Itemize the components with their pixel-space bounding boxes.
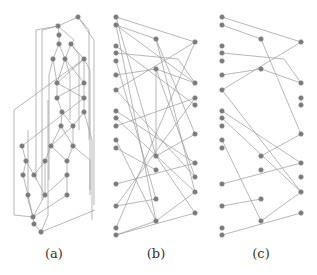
graph-node	[220, 138, 225, 143]
graph-node	[82, 57, 87, 62]
graph-node	[60, 110, 65, 115]
graph-node	[193, 190, 198, 195]
graph-node	[220, 182, 225, 187]
graph-node	[193, 96, 198, 101]
graph-node	[193, 40, 198, 45]
graph-node	[114, 73, 119, 78]
panel-c-reduced-column-graph	[220, 15, 304, 238]
graph-edge	[116, 25, 156, 221]
graph-node	[114, 109, 119, 114]
caption-c: (c)	[252, 246, 269, 261]
graph-node	[154, 37, 159, 42]
graph-node	[114, 88, 119, 93]
graph-edge	[73, 112, 84, 126]
graph-node	[21, 173, 26, 178]
panel-b-column-graph	[114, 15, 198, 238]
graph-edge	[156, 192, 195, 221]
graph-node	[220, 44, 225, 49]
graph-node	[49, 144, 54, 149]
graph-edge	[222, 213, 301, 235]
graph-node	[71, 124, 76, 129]
graph-node	[76, 15, 81, 20]
graph-edge	[51, 126, 61, 146]
graph-node	[24, 159, 29, 164]
graph-node	[299, 132, 304, 137]
graph-node	[39, 230, 44, 235]
graph-edge	[222, 25, 261, 39]
graph-node	[220, 226, 225, 231]
graph-edge	[23, 175, 28, 195]
graph-node	[220, 116, 225, 121]
graph-edge	[261, 192, 301, 221]
graph-node	[220, 51, 225, 56]
graph-edge	[116, 98, 195, 206]
graph-node	[259, 67, 264, 72]
graph-edge	[156, 134, 195, 156]
graph-node	[220, 204, 225, 209]
graph-edge	[33, 195, 67, 217]
graph-edge	[49, 59, 53, 180]
graph-node	[220, 124, 225, 129]
graph-node	[259, 154, 264, 159]
graph-node	[65, 159, 70, 164]
graph-edge	[61, 126, 73, 146]
graph-node	[299, 190, 304, 195]
graph-node	[299, 175, 304, 180]
graph-node	[114, 138, 119, 143]
graph-edge	[261, 69, 301, 83]
graph-node	[71, 144, 76, 149]
graph-node	[220, 109, 225, 114]
graph-edge	[22, 98, 84, 146]
graph-node	[114, 182, 119, 187]
graph-node	[299, 103, 304, 108]
caption-a: (a)	[45, 246, 63, 261]
graph-node	[114, 226, 119, 231]
graph-node	[193, 103, 198, 108]
graph-node	[63, 57, 68, 62]
graph-node	[193, 211, 198, 216]
graph-edge	[261, 134, 301, 156]
graph-edge	[116, 46, 195, 105]
graph-edge	[51, 126, 73, 146]
graph-edge	[73, 146, 90, 195]
graph-node	[154, 154, 159, 159]
graph-edge	[51, 146, 67, 161]
graph-node	[65, 173, 70, 178]
graph-node	[259, 37, 264, 42]
graph-node	[51, 57, 56, 62]
graph-node	[59, 124, 64, 129]
graph-node	[57, 33, 62, 38]
graph-node	[57, 42, 62, 47]
caption-b: (b)	[147, 246, 165, 261]
graph-node	[299, 40, 304, 45]
graph-node	[299, 81, 304, 86]
graph-node	[114, 146, 119, 151]
graph-edge	[261, 39, 301, 134]
graph-node	[114, 15, 119, 20]
graph-node	[31, 215, 36, 220]
graph-node	[114, 44, 119, 49]
graph-edge	[116, 69, 156, 75]
graph-edge	[116, 213, 195, 235]
graph-edge	[78, 17, 89, 140]
graph-node	[299, 211, 304, 216]
graph-node	[82, 81, 87, 86]
graph-node	[220, 15, 225, 20]
graph-node	[114, 233, 119, 238]
graph-node	[114, 116, 119, 121]
graph-node	[220, 146, 225, 151]
graph-node	[154, 67, 159, 72]
graph-node	[220, 88, 225, 93]
graph-node	[154, 219, 159, 224]
graph-node	[43, 193, 48, 198]
graph-edge	[58, 17, 78, 26]
graph-node	[69, 42, 74, 47]
graph-node	[299, 161, 304, 166]
graph-edge	[34, 175, 45, 195]
graph-node	[82, 110, 87, 115]
graph-node	[220, 23, 225, 28]
graph-node	[193, 175, 198, 180]
graph-node	[114, 51, 119, 56]
graph-node	[114, 124, 119, 129]
graph-node	[114, 23, 119, 28]
